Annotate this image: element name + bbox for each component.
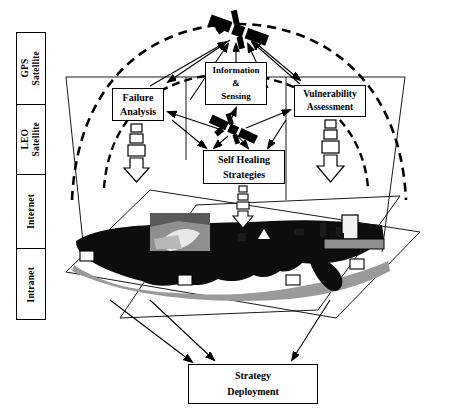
legend-cell-gps-satellite[interactable]: GPS Satellite xyxy=(17,33,45,105)
satellite-icon xyxy=(208,10,269,49)
network-tier-legend: GPS Satellite LEO Satellite Internet Int… xyxy=(16,32,46,320)
legend-cell-internet[interactable]: Internet xyxy=(17,175,45,249)
legend-cell-leo-satellite[interactable]: LEO Satellite xyxy=(17,105,45,175)
legend-label-intranet: Intranet xyxy=(26,267,37,302)
legend-label-leo-satellite: LEO Satellite xyxy=(20,122,42,157)
legend-label-gps-satellite: GPS Satellite xyxy=(20,51,42,86)
legend-cell-intranet[interactable]: Intranet xyxy=(17,249,45,321)
diagram-canvas: GPS Satellite LEO Satellite Internet Int… xyxy=(0,0,455,418)
satellite-icon xyxy=(209,113,258,145)
legend-label-internet: Internet xyxy=(26,194,37,229)
satellite-layer xyxy=(0,0,455,418)
